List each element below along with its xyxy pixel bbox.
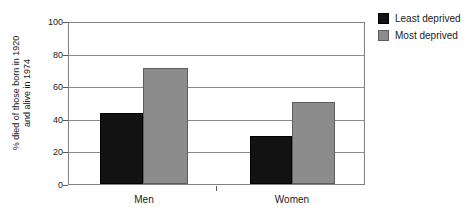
y-axis-title-line-1: % died of those born in 1920 <box>11 35 22 150</box>
bar-men-least-deprived <box>100 113 143 184</box>
plot-area <box>68 22 365 185</box>
bar-women-least-deprived <box>250 136 292 184</box>
x-category-label-men: Men <box>104 194 184 205</box>
y-axis-tick-labels: 100 80 60 40 20 0 <box>34 0 63 222</box>
gridline-60 <box>69 87 364 88</box>
legend: Least deprived Most deprived <box>378 10 473 44</box>
gridline-80 <box>69 55 364 56</box>
legend-item-least-deprived: Least deprived <box>378 10 473 27</box>
y-tick-label-80: 80 <box>37 50 63 60</box>
legend-label-most-deprived: Most deprived <box>395 30 458 41</box>
bar-women-most-deprived <box>292 102 335 184</box>
y-tick-label-40: 40 <box>37 115 63 125</box>
y-tick-label-20: 20 <box>37 147 63 157</box>
y-tick-label-0: 0 <box>37 180 63 190</box>
legend-swatch-most-deprived <box>378 30 389 41</box>
y-axis-title-line-2: and alive in 1974 <box>22 35 33 150</box>
x-category-label-women: Women <box>252 194 332 205</box>
legend-label-least-deprived: Least deprived <box>395 13 461 24</box>
bar-men-most-deprived <box>143 68 188 184</box>
x-axis-tick-divider <box>216 186 217 191</box>
legend-item-most-deprived: Most deprived <box>378 27 473 44</box>
legend-swatch-least-deprived <box>378 13 389 24</box>
bar-chart: % died of those born in 1920 and alive i… <box>0 0 475 222</box>
y-axis-tick-0 <box>63 185 68 186</box>
y-tick-label-100: 100 <box>37 17 63 27</box>
y-tick-label-60: 60 <box>37 82 63 92</box>
